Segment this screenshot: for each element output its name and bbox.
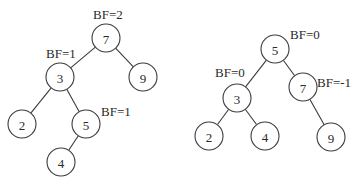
tree-edge [245, 109, 256, 124]
tree-edge [310, 99, 324, 125]
avl-tree-diagram: 739254537249 BF=2BF=1BF=1BF=0BF=0BF=-1 [0, 0, 354, 183]
node-value: 4 [58, 156, 65, 171]
tree-node-4: 4 [47, 148, 75, 176]
tree-edge [67, 89, 79, 111]
tree-edge [246, 60, 267, 87]
tree-node-5: 5 [261, 35, 289, 63]
node-value: 7 [103, 32, 110, 47]
node-value: 9 [328, 131, 335, 146]
balance-factor-label: BF=0 [290, 27, 320, 42]
balance-factor-labels: BF=2BF=1BF=1BF=0BF=0BF=-1 [46, 7, 351, 119]
balance-factor-label: BF=1 [101, 104, 131, 119]
node-value: 3 [234, 92, 241, 107]
node-value: 4 [262, 130, 269, 145]
node-value: 5 [272, 43, 279, 58]
tree-node-5: 5 [72, 110, 100, 138]
node-value: 5 [83, 118, 90, 133]
tree-node-7: 7 [92, 24, 120, 52]
tree-edge [217, 109, 228, 124]
node-value: 2 [206, 130, 213, 145]
balance-factor-label: BF=0 [215, 65, 245, 80]
balance-factor-label: BF=2 [93, 7, 123, 22]
tree-node-3: 3 [223, 84, 251, 112]
tree-node-4: 4 [251, 122, 279, 150]
tree-edge [283, 60, 294, 75]
node-value: 9 [140, 71, 147, 86]
tree-node-7: 7 [289, 73, 317, 101]
node-value: 2 [19, 118, 26, 133]
tree-node-9: 9 [317, 123, 345, 151]
tree-node-3: 3 [46, 63, 74, 91]
tree-node-2: 2 [8, 110, 36, 138]
tree-edge [116, 48, 134, 67]
tree-edge [69, 136, 79, 151]
balance-factor-label: BF=1 [46, 46, 76, 61]
balance-factor-label: BF=-1 [317, 75, 351, 90]
tree-node-2: 2 [195, 122, 223, 150]
tree-node-9: 9 [129, 63, 157, 91]
tree-edge [31, 88, 51, 113]
node-value: 3 [57, 71, 64, 86]
node-value: 7 [300, 81, 307, 96]
